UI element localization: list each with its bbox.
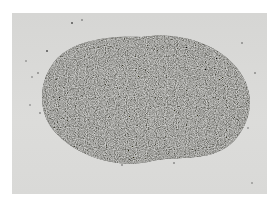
photo [12,13,267,194]
granular-pile [12,13,267,194]
